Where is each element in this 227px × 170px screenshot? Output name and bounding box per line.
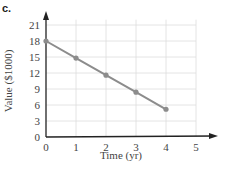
data-point: [103, 73, 108, 78]
y-tick-label: 18: [29, 35, 41, 47]
x-tick-label: 4: [163, 141, 169, 153]
data-point: [163, 107, 168, 112]
line-chart: 036912151821012345Time (yr)Value ($1000): [0, 0, 227, 170]
data-point: [43, 38, 48, 43]
x-tick-label: 0: [43, 141, 49, 153]
x-axis-arrow-icon: [209, 133, 218, 139]
y-axis-arrow-icon: [43, 11, 49, 20]
data-point: [73, 55, 78, 60]
x-axis: [46, 136, 215, 137]
x-axis-title: Time (yr): [100, 149, 142, 162]
y-tick-label: 0: [35, 131, 41, 143]
x-tick-label: 1: [73, 141, 79, 153]
data-point: [133, 90, 138, 95]
y-tick-label: 12: [29, 67, 40, 79]
y-tick-label: 21: [29, 19, 40, 31]
y-tick-label: 6: [35, 99, 41, 111]
y-axis-title: Value ($1000): [2, 49, 15, 112]
x-tick-label: 5: [193, 141, 199, 153]
y-tick-label: 3: [35, 115, 41, 127]
y-tick-label: 9: [35, 83, 41, 95]
y-tick-label: 15: [29, 51, 41, 63]
